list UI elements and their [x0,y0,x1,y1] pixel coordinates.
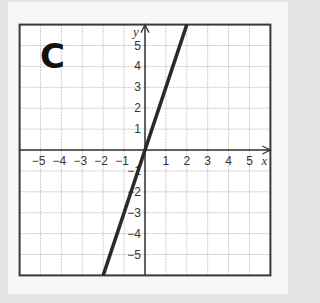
x-tick-label: 3 [204,154,211,168]
x-tick-label: 4 [225,154,232,168]
y-tick-label: 1 [134,122,141,136]
x-tick-label: −5 [32,154,46,168]
y-tick-label: −4 [127,227,141,241]
x-tick-label: 1 [163,154,170,168]
y-axis-label: y [131,24,139,39]
y-tick-label: 4 [134,59,141,73]
x-tick-label: −3 [73,154,87,168]
y-tick-label: 3 [134,80,141,94]
x-tick-label: −4 [53,154,67,168]
y-tick-label: 5 [134,39,141,53]
panel-label: C [40,36,65,76]
x-tick-label: −2 [94,154,108,168]
x-tick-label: 5 [246,154,253,168]
x-axis-label: x [261,153,268,168]
y-tick-label: 2 [134,101,141,115]
x-tick-label: 2 [183,154,190,168]
y-tick-label: −3 [127,206,141,220]
y-tick-label: −5 [127,248,141,262]
